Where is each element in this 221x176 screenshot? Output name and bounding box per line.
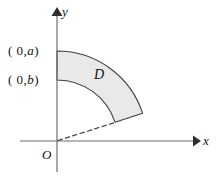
x-axis-label: x xyxy=(203,134,209,147)
region-label-d: D xyxy=(94,68,104,82)
y-axis-label: y xyxy=(62,5,68,18)
point-label-b: ( 0,b) xyxy=(8,73,39,86)
point-label-a-prefix: ( 0, xyxy=(8,43,27,58)
point-label-b-prefix: ( 0, xyxy=(8,72,27,87)
origin-label: O xyxy=(42,148,51,161)
point-label-a-suffix: ) xyxy=(34,43,39,58)
figure-container: ( 0,a) ( 0,b) y x D O xyxy=(0,0,221,176)
coordinate-diagram xyxy=(0,0,221,176)
x-axis-arrow-icon xyxy=(193,136,201,147)
point-label-a: ( 0,a) xyxy=(8,44,39,57)
point-label-b-suffix: ) xyxy=(34,72,39,87)
y-axis-arrow-icon xyxy=(52,7,63,16)
annular-sector-region xyxy=(57,51,143,122)
dashed-radius-line xyxy=(58,122,116,140)
